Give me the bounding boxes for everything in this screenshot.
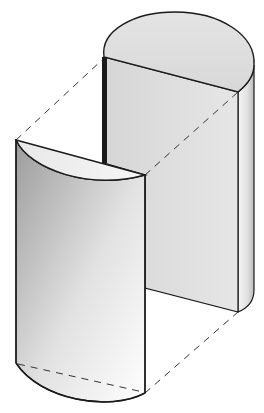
large-block-dark-edge bbox=[102, 57, 107, 163]
curved-segment bbox=[16, 140, 145, 402]
diagram-canvas bbox=[0, 0, 264, 413]
diagram-svg bbox=[0, 0, 264, 413]
dash-bottom-right bbox=[145, 312, 238, 393]
large-block-curved-side bbox=[238, 65, 254, 312]
dash-top-left bbox=[16, 60, 102, 140]
